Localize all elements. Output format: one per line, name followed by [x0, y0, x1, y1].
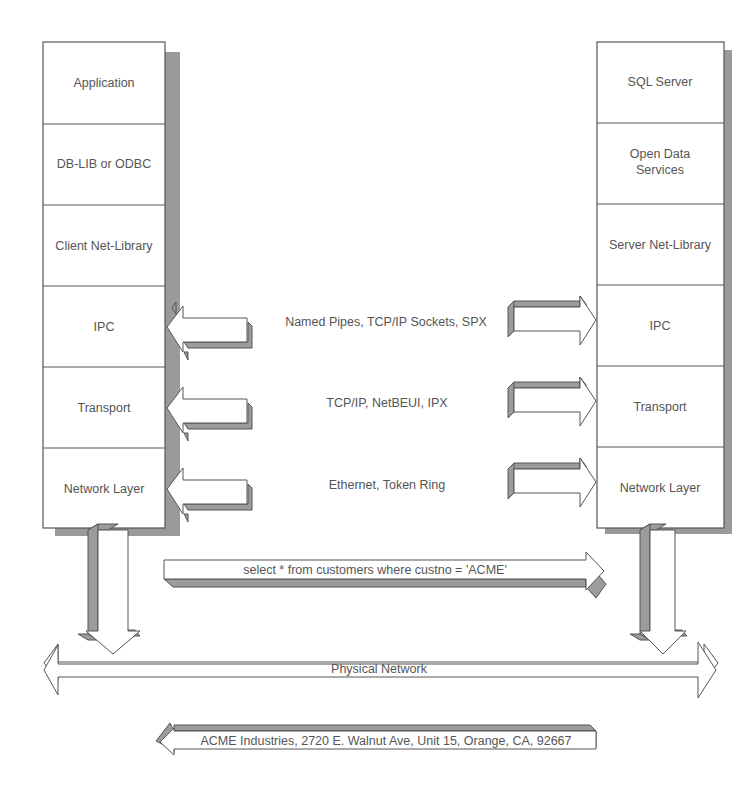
server-layer-net-library: Server Net-Library [609, 238, 712, 252]
server-layer-ods-line1: Open Data [630, 147, 691, 161]
request-query-label: select * from customers where custno = '… [243, 563, 507, 577]
client-layer-ipc: IPC [94, 320, 115, 334]
server-down-arrow [630, 524, 687, 654]
physical-network-label: Physical Network [331, 662, 428, 676]
server-network-arrow [508, 458, 596, 507]
client-stack: Application DB-LIB or ODBC Client Net-Li… [43, 42, 180, 536]
client-layer-application: Application [73, 76, 134, 90]
server-stack: SQL Server Open Data Services Server Net… [597, 42, 732, 534]
client-layer-db-lib: DB-LIB or ODBC [57, 157, 151, 171]
response-record-label: ACME Industries, 2720 E. Walnut Ave, Uni… [200, 734, 571, 748]
client-layer-transport: Transport [77, 401, 131, 415]
server-ipc-arrow [508, 296, 596, 345]
client-stack-box [43, 42, 165, 528]
transport-protocols-label: TCP/IP, NetBEUI, IPX [326, 396, 448, 410]
client-layer-network: Network Layer [64, 482, 145, 496]
physical-network-arrow: Physical Network [44, 642, 718, 698]
request-arrow: select * from customers where custno = '… [164, 552, 606, 598]
network-protocols-label: Ethernet, Token Ring [329, 478, 446, 492]
server-layer-ipc: IPC [650, 319, 671, 333]
server-transport-arrow [508, 377, 596, 426]
server-layer-transport: Transport [633, 400, 687, 414]
client-server-architecture-diagram: Application DB-LIB or ODBC Client Net-Li… [0, 0, 756, 793]
client-layer-net-library: Client Net-Library [55, 239, 153, 253]
response-arrow: ACME Industries, 2720 E. Walnut Ave, Uni… [156, 723, 596, 755]
ipc-protocols-label: Named Pipes, TCP/IP Sockets, SPX [285, 315, 487, 329]
server-layer-sql-server: SQL Server [628, 75, 693, 89]
server-layer-network: Network Layer [620, 481, 701, 495]
server-layer-ods-line2: Services [636, 163, 684, 177]
client-down-arrow [78, 524, 140, 654]
